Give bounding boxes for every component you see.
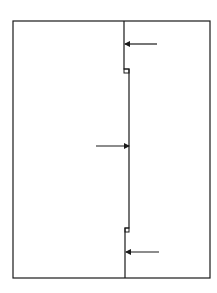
outer-frame: [13, 21, 210, 278]
arrow-group: [96, 44, 159, 252]
divider-line: [124, 21, 129, 278]
notch-group: [124, 69, 129, 232]
diagram-canvas: [0, 0, 217, 293]
